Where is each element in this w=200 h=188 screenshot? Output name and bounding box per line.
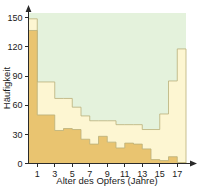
y-tick-label: 90 — [12, 71, 22, 81]
chart-canvas: 0306090120150 1357911131517 Alter des Op… — [0, 0, 200, 188]
x-tick-label: 1 — [35, 169, 40, 179]
y-tick-label: 60 — [12, 100, 22, 110]
y-axis-arrow-icon — [26, 5, 32, 12]
y-tick-label: 30 — [12, 130, 22, 140]
histogram-chart: 0306090120150 1357911131517 Alter des Op… — [0, 0, 200, 188]
y-axis-ticks — [25, 18, 29, 164]
y-tick-label: 120 — [7, 42, 22, 52]
x-tick-label: 17 — [172, 169, 182, 179]
x-axis-title: Alter des Opfers (Jahre) — [56, 175, 157, 186]
x-axis-arrow-icon — [190, 161, 197, 167]
y-tick-label: 0 — [17, 159, 22, 169]
y-tick-label: 150 — [7, 13, 22, 23]
y-axis-title: Häufigkeit — [1, 67, 12, 110]
x-axis-ticks — [37, 164, 177, 168]
